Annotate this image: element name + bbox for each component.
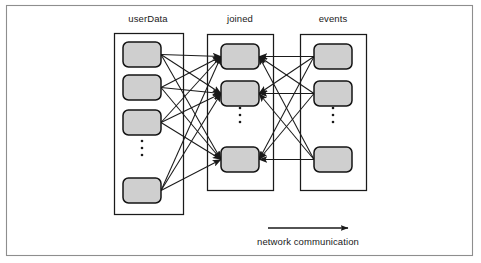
ellipsis-dot — [239, 114, 242, 117]
ellipsis-dot — [141, 147, 144, 150]
node-joined-2[interactable] — [221, 147, 259, 172]
node-userData-0[interactable] — [123, 42, 161, 67]
ellipsis-dot — [332, 121, 335, 124]
ellipsis-dot — [141, 140, 144, 143]
diagram-canvas: userDatajoinedevents network communicati… — [0, 0, 481, 263]
ellipsis-dot — [332, 107, 335, 110]
ellipsis-dot — [239, 121, 242, 124]
node-userData-1[interactable] — [123, 75, 161, 100]
node-userData-2[interactable] — [123, 110, 161, 135]
figure-root: userDatajoinedevents network communicati… — [0, 0, 481, 263]
column-label-events: events — [319, 13, 348, 24]
node-events-2[interactable] — [314, 147, 352, 172]
column-label-userData: userData — [128, 13, 168, 24]
node-events-1[interactable] — [314, 81, 352, 106]
node-joined-1[interactable] — [221, 81, 259, 106]
network-communication-label: network communication — [257, 236, 359, 247]
ellipsis-dot — [332, 114, 335, 117]
figure-outer-frame — [7, 6, 473, 256]
ellipsis-dot — [141, 154, 144, 157]
node-events-0[interactable] — [314, 44, 352, 69]
node-joined-0[interactable] — [221, 44, 259, 69]
ellipsis-dot — [239, 107, 242, 110]
node-userData-3[interactable] — [123, 178, 161, 203]
column-label-joined: joined — [226, 13, 253, 24]
